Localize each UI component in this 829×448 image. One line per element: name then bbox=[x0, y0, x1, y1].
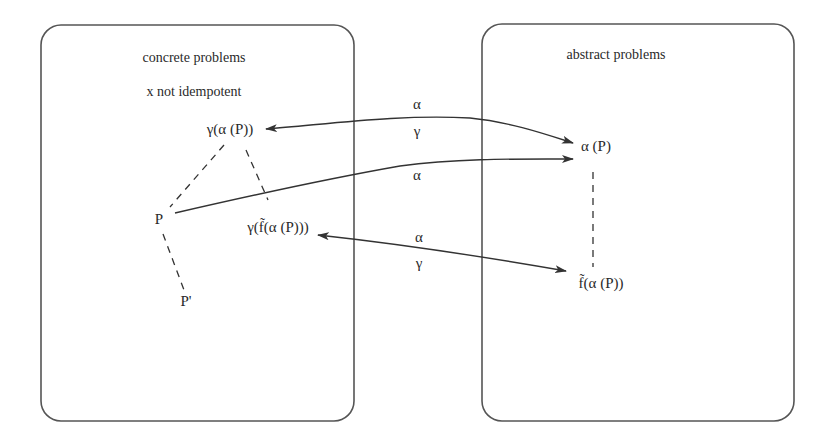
label-top-alpha: α bbox=[413, 96, 421, 112]
dashed-gamma-alpha-to-p bbox=[170, 145, 224, 207]
abstract-box-title: abstract problems bbox=[566, 47, 665, 62]
abstract-problems-box bbox=[482, 24, 794, 421]
label-bottom-alpha: α bbox=[415, 229, 423, 245]
arrow-bottom-bidirectional bbox=[318, 235, 566, 271]
arrow-middle-forward bbox=[175, 159, 573, 213]
dashed-p-to-pprime bbox=[163, 234, 184, 290]
node-alpha-p: α (P) bbox=[581, 138, 611, 155]
node-p: P bbox=[155, 211, 163, 227]
node-p-prime: P' bbox=[180, 293, 191, 309]
label-bottom-gamma: γ bbox=[415, 255, 423, 271]
abstraction-diagram: concrete problems x not idempotent abstr… bbox=[0, 0, 829, 448]
label-middle-alpha: α bbox=[413, 167, 421, 183]
label-top-gamma: γ bbox=[413, 123, 421, 139]
concrete-box-subtitle: x not idempotent bbox=[147, 84, 242, 99]
concrete-box-title: concrete problems bbox=[142, 50, 245, 65]
node-gamma-alpha-p: γ(α (P)) bbox=[206, 121, 254, 138]
node-gamma-f-alpha-p: γ(f̃(α (P))) bbox=[246, 218, 309, 236]
node-f-alpha-p: f̃(α (P)) bbox=[579, 274, 624, 292]
